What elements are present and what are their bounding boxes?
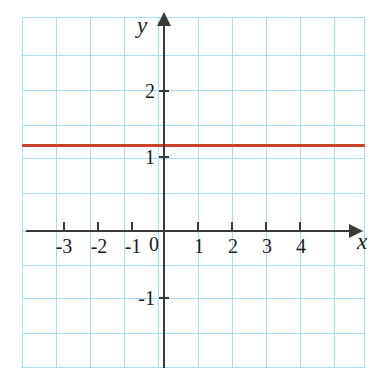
gridline-horizontal — [22, 193, 365, 194]
gridline-horizontal — [22, 265, 365, 266]
gridline-horizontal — [22, 90, 365, 91]
x-tick-mark — [97, 222, 99, 231]
gridline-horizontal — [22, 125, 365, 126]
x-tick-label--2: -2 — [91, 236, 108, 256]
graph-figure: -3 -2 -1 1 2 3 4 0 2 1 -1 x y — [0, 0, 385, 386]
y-axis-line — [163, 24, 165, 368]
x-tick-mark — [265, 222, 267, 231]
gridline-horizontal — [22, 298, 365, 299]
x-tick-label-2: 2 — [228, 236, 238, 256]
x-tick-mark — [231, 222, 233, 231]
grid-area — [22, 17, 365, 368]
y-axis-arrow-icon — [157, 12, 171, 26]
origin-label: 0 — [149, 234, 159, 254]
y-tick-mark — [159, 90, 169, 92]
x-tick-label-4: 4 — [296, 236, 306, 256]
gridline-horizontal — [22, 158, 365, 159]
x-tick-mark — [63, 222, 65, 231]
gridline-horizontal — [22, 55, 365, 56]
gridline-horizontal — [22, 17, 365, 18]
x-tick-mark — [299, 222, 301, 231]
x-tick-label-1: 1 — [194, 236, 204, 256]
x-tick-label-3: 3 — [262, 236, 272, 256]
x-tick-label--1: -1 — [125, 236, 142, 256]
y-tick-mark — [159, 156, 169, 158]
series-line-y-equals-1 — [22, 144, 365, 147]
y-axis-label: y — [137, 14, 147, 37]
x-axis-label: x — [357, 230, 367, 253]
gridline-horizontal — [22, 333, 365, 334]
y-tick-label--1: -1 — [121, 288, 155, 308]
x-tick-label--3: -3 — [56, 236, 73, 256]
y-tick-label-2: 2 — [133, 81, 155, 101]
gridline-horizontal — [22, 367, 365, 368]
x-tick-mark — [131, 222, 133, 231]
x-axis-line — [26, 230, 352, 232]
x-tick-mark — [197, 222, 199, 231]
y-tick-mark — [159, 297, 169, 299]
y-tick-label-1: 1 — [133, 147, 155, 167]
